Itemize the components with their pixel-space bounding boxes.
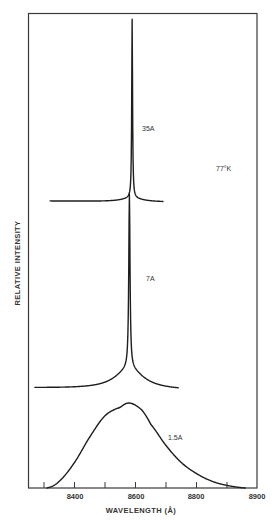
- trace-1-5A: [47, 403, 245, 488]
- plot-frame: [29, 14, 258, 489]
- x-tick-label-8900: 8900: [249, 492, 266, 501]
- x-tick-label-8600: 8600: [128, 492, 145, 501]
- trace-label-7A: 7A: [146, 275, 155, 282]
- x-axis-label: WAVELENGTH (Å): [106, 506, 177, 515]
- trace-label-35A: 35A: [142, 125, 155, 132]
- trace-35A: [50, 19, 163, 201]
- x-axis-ticks: [44, 482, 227, 488]
- x-tick-label-8400: 8400: [67, 492, 84, 501]
- y-axis-label: RELATIVE INTENSITY: [13, 221, 22, 306]
- x-tick-label-8800: 8800: [188, 492, 205, 501]
- trace-7A: [35, 194, 178, 387]
- trace-label-1-5A: 1.5A: [168, 434, 183, 441]
- spectrum-chart: 8400 8600 8800 8900 WAVELENGTH (Å) RELAT…: [0, 0, 273, 526]
- temperature-label: 77°K: [216, 165, 232, 172]
